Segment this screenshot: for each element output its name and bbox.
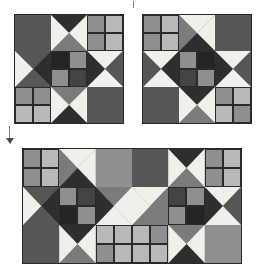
block-top-left-top-right-fourpatch [87,15,123,51]
block-bottom-strip-r0c0-fourpatch-tr-patch [41,149,59,168]
block-bottom-strip-r2c3-fourpatch-tr-patch [150,225,168,244]
block-bottom-strip-r1c1-fourpatch [59,187,95,225]
block-bottom-strip-r0c5-fourpatch-tr-patch [223,149,241,168]
block-bottom-strip-cell-r1c3 [132,187,168,225]
block-top-right-bottom-right-fourpatch-tl-patch [215,87,233,105]
block-top-right-cell-bottom-right [215,87,251,123]
block-top-left-cell-mid-left [15,51,51,87]
block-top-left-top-left-solid [15,15,51,51]
block-bottom-strip-r2c3-fourpatch-tl-patch [132,225,150,244]
block-bottom-strip-cell-r2c0 [23,225,59,263]
block-top-right-cell-bottom-left [143,87,179,123]
block-bottom-strip-r1c1-fourpatch-tr-patch [77,187,95,206]
block-top-left-center-fourpatch [51,51,87,87]
block-top-right-center-fourpatch-bl-patch [179,69,197,87]
block-top-right-bottom-right-fourpatch-br-patch [233,105,251,123]
block-top-left-cell-mid-right [87,51,123,87]
block-top-left-top-right-fourpatch-bl-patch [87,33,105,51]
block-top-left [14,14,124,124]
block-bottom-strip-r0c0-fourpatch-tl-patch [23,149,41,168]
block-top-right-mid-left-hourglass [143,51,179,87]
block-bottom-strip-r0c0-fourpatch-bl-patch [23,168,41,187]
block-bottom-strip-cell-r0c2 [96,149,132,187]
block-top-left-bottom-left-fourpatch [15,87,51,123]
block-bottom-strip-r1c4-fourpatch-br-patch [186,206,204,225]
block-top-left-bottom-left-fourpatch-bl-patch [15,105,33,123]
block-bottom-strip-cell-r2c3 [132,225,168,263]
registration-mark-left-arrow [6,138,14,144]
block-top-left-cell-top-center [51,15,87,51]
block-top-left-bottom-left-fourpatch-tl-patch [15,87,33,105]
block-bottom-strip-cell-r2c2 [96,225,132,263]
block-top-left-top-right-fourpatch-tr-patch [105,15,123,33]
block-bottom-strip-cell-r0c4 [168,149,204,187]
block-top-left-bottom-left-fourpatch-br-patch [33,105,51,123]
block-top-left-cell-bottom-right [87,87,123,123]
block-bottom-strip-cell-r0c0 [23,149,59,187]
block-bottom-strip-r0c5-fourpatch-tl-patch [205,149,223,168]
block-bottom-strip-r2c2-fourpatch-tl-patch [96,225,114,244]
block-top-left-cell-center [51,51,87,87]
block-bottom-strip-r2c3-fourpatch-br-patch [150,244,168,263]
block-bottom-strip-r0c3-solid [132,149,168,187]
block-top-right [142,14,252,124]
block-top-left-bottom-center-hourglass [51,87,87,123]
block-top-right-cell-mid-left [143,51,179,87]
block-bottom-strip-r1c4-fourpatch-tl-patch [168,187,186,206]
block-bottom-strip-r1c5-hourglass [205,187,241,225]
block-bottom-strip-cell-r2c5 [205,225,241,263]
block-bottom-strip-cell-r1c4 [168,187,204,225]
block-bottom-strip-r1c1-fourpatch-br-patch [77,206,95,225]
block-bottom-strip-r2c1-hourglass [59,225,95,263]
block-bottom-strip-r2c2-fourpatch-br-patch [114,244,132,263]
block-bottom-strip-r1c4-fourpatch-tr-patch [186,187,204,206]
block-bottom-strip-cell-r2c4 [168,225,204,263]
block-bottom-strip-r2c2-fourpatch-tr-patch [114,225,132,244]
block-top-right-top-left-fourpatch-bl-patch [143,33,161,51]
block-top-left-cell-top-right [87,15,123,51]
registration-mark-top-tick [133,1,134,8]
block-top-left-top-center-hourglass [51,15,87,51]
block-bottom-strip-r1c4-fourpatch [168,187,204,225]
block-bottom-strip-r1c2-hourglass [96,187,132,225]
block-bottom-strip-r1c4-fourpatch-bl-patch [168,206,186,225]
block-top-right-cell-center [179,51,215,87]
block-top-left-center-fourpatch-bl-patch [51,69,69,87]
block-top-right-mid-right-hourglass [215,51,251,87]
block-top-right-bottom-left-solid [143,87,179,123]
registration-mark-left-tick [9,126,10,138]
block-top-right-cell-top-center [179,15,215,51]
block-bottom-strip-r0c1-hourglass [59,149,95,187]
block-top-right-top-left-fourpatch-tr-patch [161,15,179,33]
block-bottom-strip-r0c2-solid [96,149,132,187]
block-bottom-strip-r2c5-solid [205,225,241,263]
block-bottom-strip-r2c4-hourglass [168,225,204,263]
block-bottom-strip-r0c4-hourglass [168,149,204,187]
block-bottom-strip-cell-r1c2 [96,187,132,225]
block-bottom-strip-r0c0-fourpatch [23,149,59,187]
block-bottom-strip-r2c3-fourpatch-bl-patch [132,244,150,263]
block-bottom-strip-r2c2-fourpatch [96,225,132,263]
block-bottom-strip-cell-r2c1 [59,225,95,263]
block-bottom-strip-r0c5-fourpatch-br-patch [223,168,241,187]
block-bottom-strip-cell-r0c1 [59,149,95,187]
block-bottom-strip-r0c0-fourpatch-br-patch [41,168,59,187]
block-top-right-bottom-center-hourglass [179,87,215,123]
block-bottom-strip-r2c0-solid [23,225,59,263]
block-bottom-strip-cell-r1c0 [23,187,59,225]
block-top-left-bottom-left-fourpatch-tr-patch [33,87,51,105]
block-top-right-center-fourpatch [179,51,215,87]
figure-canvas [0,0,263,272]
block-top-right-cell-mid-right [215,51,251,87]
block-bottom-strip-cell-r0c5 [205,149,241,187]
block-top-right-top-left-fourpatch [143,15,179,51]
block-top-right-top-center-hourglass [179,15,215,51]
block-top-left-top-right-fourpatch-br-patch [105,33,123,51]
block-top-right-cell-bottom-center [179,87,215,123]
block-bottom-strip-r1c3-hourglass [132,187,168,225]
block-top-right-top-left-fourpatch-br-patch [161,33,179,51]
block-top-left-center-fourpatch-br-patch [69,69,87,87]
block-bottom-strip-r2c3-fourpatch [132,225,168,263]
block-bottom-strip [22,148,242,264]
block-top-left-cell-bottom-center [51,87,87,123]
